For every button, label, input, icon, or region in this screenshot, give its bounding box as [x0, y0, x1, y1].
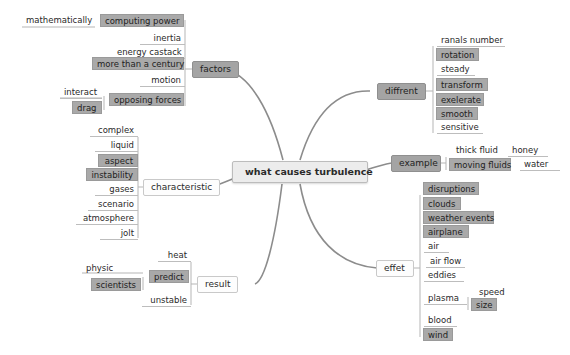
subtopic-mathematically[interactable]: mathematically	[22, 14, 94, 27]
subtopic-clouds[interactable]: clouds	[423, 197, 461, 210]
subtopic-exelerate[interactable]: exelerate	[436, 93, 484, 106]
subtopic-atmosphere[interactable]: atmosphere	[76, 212, 138, 225]
subtopic-more-than-a-century[interactable]: more than a century	[92, 57, 184, 70]
subtopic-size[interactable]: size	[471, 298, 497, 311]
subtopic-weather-events[interactable]: weather events	[423, 211, 494, 224]
subtopic-physic[interactable]: physic	[82, 262, 126, 275]
subtopic-drag[interactable]: drag	[72, 101, 102, 114]
subtopic-predict[interactable]: predict	[149, 270, 189, 283]
subtopic-aspect[interactable]: aspect	[98, 154, 138, 167]
subtopic-air-flow[interactable]: air flow	[426, 255, 465, 268]
topic-diffrent[interactable]: diffrent	[377, 83, 426, 100]
subtopic-computing-power[interactable]: computing power	[100, 14, 184, 27]
subtopic-honey[interactable]: honey	[508, 144, 548, 157]
topic-factors[interactable]: factors	[192, 61, 239, 78]
topic-example[interactable]: example	[391, 155, 441, 172]
subtopic-smooth[interactable]: smooth	[436, 107, 478, 120]
subtopic-complex[interactable]: complex	[90, 124, 138, 137]
subtopic-opposing-forces[interactable]: opposing forces	[109, 93, 184, 106]
subtopic-ranals-number[interactable]: ranals number	[437, 34, 505, 47]
topic-effet[interactable]: effet	[376, 260, 414, 277]
subtopic-wind[interactable]: wind	[423, 328, 453, 341]
subtopic-scenario[interactable]: scenario	[88, 198, 138, 211]
subtopic-air[interactable]: air	[424, 240, 449, 253]
subtopic-instability[interactable]: instability	[86, 168, 138, 181]
subtopic-unstable[interactable]: unstable	[142, 294, 191, 307]
subtopic-thick-fluid[interactable]: thick fluid	[452, 144, 500, 157]
subtopic-jolt[interactable]: jolt	[100, 227, 138, 240]
subtopic-water[interactable]: water	[520, 158, 560, 171]
subtopic-liquid[interactable]: liquid	[95, 139, 138, 152]
subtopic-plasma[interactable]: plasma	[424, 292, 467, 305]
subtopic-eddies[interactable]: eddies	[424, 269, 464, 282]
subtopic-blood[interactable]: blood	[424, 314, 457, 327]
topic-result[interactable]: result	[197, 276, 238, 293]
subtopic-scientists[interactable]: scientists	[91, 278, 141, 291]
subtopic-interact[interactable]: interact	[60, 86, 102, 99]
topic-characteristic[interactable]: characteristic	[143, 179, 220, 196]
subtopic-motion[interactable]: motion	[140, 74, 185, 87]
subtopic-sensitive[interactable]: sensitive	[437, 121, 483, 134]
subtopic-transform[interactable]: transform	[436, 78, 488, 91]
subtopic-airplane[interactable]: airplane	[423, 225, 469, 238]
subtopic-gases[interactable]: gases	[95, 183, 138, 196]
subtopic-disruptions[interactable]: disruptions	[423, 182, 479, 195]
mind-map-canvas: what causes turbulence factors mathemati…	[0, 0, 570, 355]
subtopic-moving-fluids[interactable]: moving fluids	[449, 158, 511, 171]
subtopic-inertia[interactable]: inertia	[140, 32, 185, 45]
subtopic-steady[interactable]: steady	[437, 63, 475, 76]
central-topic[interactable]: what causes turbulence	[232, 161, 368, 183]
subtopic-rotation[interactable]: rotation	[436, 48, 479, 61]
subtopic-heat[interactable]: heat	[158, 249, 191, 262]
